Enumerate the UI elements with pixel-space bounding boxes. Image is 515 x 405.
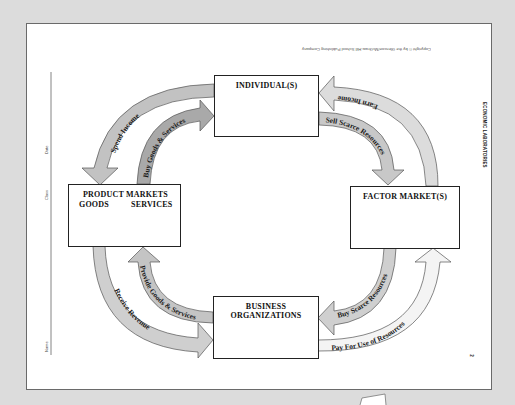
page-number: 2 (469, 354, 474, 357)
node-product-markets: PRODUCT MARKETS GOODS SERVICES (68, 184, 181, 247)
node-business-organizations: BUSINESS ORGANIZATIONS (213, 296, 319, 359)
node-product-markets-label: PRODUCT MARKETS (83, 190, 180, 199)
node-product-markets-goods: GOODS (79, 200, 109, 209)
date-field-label: Date (44, 146, 49, 154)
node-factor-markets: FACTOR MARKET(S) (350, 186, 460, 249)
node-individuals-label: INDIVIDUAL(S) (215, 81, 318, 90)
page-tab (360, 394, 386, 405)
node-individuals: INDIVIDUAL(S) (214, 75, 319, 137)
name-field-label: Name (44, 341, 49, 352)
node-factor-markets-label: FACTOR MARKET(S) (351, 192, 459, 201)
node-business-label: BUSINESS ORGANIZATIONS (214, 302, 318, 320)
arrow-buy-resources (318, 248, 396, 335)
arrow-earn-income (319, 76, 438, 186)
node-product-markets-services: SERVICES (131, 200, 172, 209)
series-label: ECONOMIC LABORATORIES (482, 102, 487, 168)
copyright-notice: Copyright © by the Glencoe/McGraw-Hill S… (302, 47, 431, 52)
class-field-label: Class (44, 190, 49, 200)
